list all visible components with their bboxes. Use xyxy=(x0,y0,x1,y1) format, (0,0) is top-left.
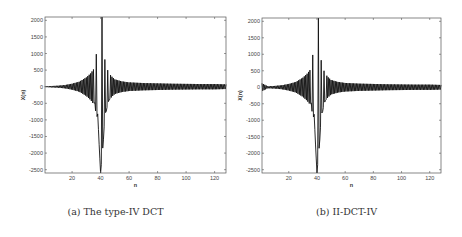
y-tick-label: -1500 xyxy=(29,133,43,139)
y-tick-label: 2000 xyxy=(248,18,260,24)
y-tick-label: -2000 xyxy=(246,150,260,156)
y-tick-label: 500 xyxy=(251,68,260,74)
chart-panel-b: -2500-2000-1500-1000-5000500100015002000… xyxy=(231,0,462,237)
y-axis-label: X(n) xyxy=(20,89,26,100)
x-axis-label: n xyxy=(134,182,138,188)
y-tick-label: 1500 xyxy=(248,35,260,41)
x-axis-label: n xyxy=(350,182,354,188)
x-tick-label: 100 xyxy=(397,175,406,181)
y-tick-label: -1500 xyxy=(246,134,260,140)
y-tick-label: -2500 xyxy=(246,167,260,173)
y-tick-label: 500 xyxy=(34,67,43,73)
x-tick-label: 120 xyxy=(425,175,434,181)
signal-line xyxy=(45,17,226,173)
y-tick-label: -1000 xyxy=(29,117,43,123)
y-tick-label: -500 xyxy=(32,100,43,106)
y-axis-label: X(n) xyxy=(237,90,243,101)
y-tick-label: 1000 xyxy=(248,51,260,57)
caption-a: (a) The type-IV DCT xyxy=(0,206,231,217)
chart-panel-a: -2500-2000-1500-1000-5000500100015002000… xyxy=(0,0,231,237)
plot-b: -2500-2000-1500-1000-5000500100015002000… xyxy=(231,0,462,237)
x-tick-label: 40 xyxy=(98,175,104,181)
y-tick-label: -2000 xyxy=(29,150,43,156)
y-tick-label: -500 xyxy=(249,101,260,107)
x-tick-label: 40 xyxy=(314,175,320,181)
x-tick-label: 60 xyxy=(342,175,348,181)
y-tick-label: 1500 xyxy=(31,34,43,40)
y-tick-label: 0 xyxy=(257,84,260,90)
x-tick-label: 100 xyxy=(182,175,191,181)
plot-frame xyxy=(45,17,226,173)
signal-line xyxy=(262,18,441,173)
caption-b: (b) II-DCT-IV xyxy=(231,206,462,217)
y-tick-label: -2500 xyxy=(29,167,43,173)
x-tick-label: 120 xyxy=(210,175,219,181)
x-tick-label: 80 xyxy=(155,175,161,181)
y-tick-label: -1000 xyxy=(246,117,260,123)
x-tick-label: 80 xyxy=(370,175,376,181)
x-tick-label: 20 xyxy=(69,175,75,181)
plot-frame xyxy=(262,18,441,173)
x-tick-label: 20 xyxy=(286,175,292,181)
plot-a: -2500-2000-1500-1000-5000500100015002000… xyxy=(0,0,231,237)
y-tick-label: 0 xyxy=(40,84,43,90)
x-tick-label: 60 xyxy=(126,175,132,181)
y-tick-label: 2000 xyxy=(31,17,43,23)
y-tick-label: 1000 xyxy=(31,51,43,57)
